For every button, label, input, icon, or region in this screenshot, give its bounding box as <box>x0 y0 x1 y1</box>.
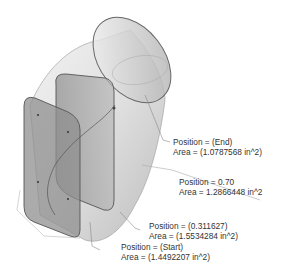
label-start-area: Area = (1.4492207 in^2) <box>121 253 210 263</box>
label-0311627: Position = (0.311627) Area = (1.5534284 … <box>149 222 238 241</box>
section-start <box>24 97 80 237</box>
cad-section-diagram: Position = (End) Area = (1.0787568 in^2)… <box>0 0 299 276</box>
label-0311627-area: Area = (1.5534284 in^2) <box>149 232 238 242</box>
label-070: Position = 0.70 Area = 1.2866448 in^2 <box>179 178 262 197</box>
label-start: Position = (Start) Area = (1.4492207 in^… <box>121 243 210 262</box>
label-070-area: Area = 1.2866448 in^2 <box>179 188 262 198</box>
label-end: Position = (End) Area = (1.0787568 in^2) <box>173 138 262 157</box>
label-end-area: Area = (1.0787568 in^2) <box>173 148 262 158</box>
